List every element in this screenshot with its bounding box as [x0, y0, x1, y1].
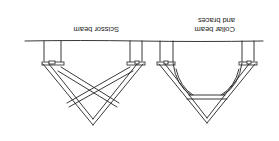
label-collar-beam-line1: Collar beam: [195, 25, 235, 34]
scissor-beam-truss: [42, 41, 145, 125]
truss-diagram: Collar beam and braces Scissor beam: [0, 0, 279, 141]
collar-beam-truss: [157, 41, 257, 123]
label-collar-beam-line2: and braces: [198, 16, 235, 25]
label-scissor-beam: Scissor beam: [74, 25, 119, 34]
